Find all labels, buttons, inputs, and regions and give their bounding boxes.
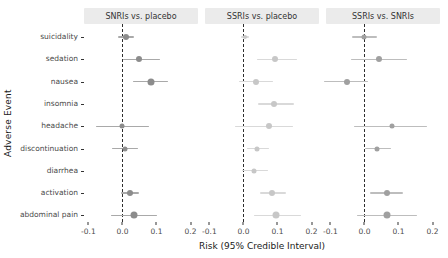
x-axis-tick	[190, 222, 191, 225]
zero-reference-line	[364, 24, 365, 222]
x-axis-tick-label: 0.2	[185, 227, 197, 236]
x-axis-tick	[398, 222, 399, 225]
x-axis-tick-label: 0.1	[272, 227, 284, 236]
facet-strip-label: SSRIs vs. SNRIs	[352, 12, 414, 21]
estimate-point	[271, 101, 277, 107]
x-axis-tick	[277, 222, 278, 225]
estimate-point	[375, 146, 380, 151]
facet-panel: SNRIs vs. placebo-0.10.00.10.2	[84, 8, 198, 252]
estimate-point	[266, 123, 272, 129]
estimate-point	[272, 56, 278, 62]
estimate-point	[273, 212, 280, 219]
zero-reference-line	[243, 24, 244, 222]
y-axis-label: diarrhea	[47, 167, 78, 175]
estimate-point	[362, 35, 367, 40]
facet-panel-body	[205, 24, 319, 222]
estimate-point	[136, 56, 142, 62]
facet-strip-label: SNRIs vs. placebo	[105, 12, 176, 21]
x-axis-tick	[156, 222, 157, 225]
x-axis-tick-label: -0.1	[323, 227, 338, 236]
x-axis-tick	[311, 222, 312, 225]
x-axis-tick-label: 0.0	[358, 227, 370, 236]
estimate-point	[131, 212, 138, 219]
x-axis-tick	[432, 222, 433, 225]
y-axis-label: nausea	[51, 78, 78, 86]
facet-panel-body	[326, 24, 440, 222]
x-axis-tick-label: -0.1	[81, 227, 96, 236]
facet-strip: SSRIs vs. placebo	[205, 8, 319, 24]
y-axis-label: abdominal pain	[20, 212, 78, 220]
y-axis: suicidalitysedationnauseainsomniaheadach…	[16, 24, 84, 222]
estimate-point	[389, 124, 394, 129]
facet-strip: SSRIs vs. SNRIs	[326, 8, 440, 24]
estimate-point	[384, 190, 390, 196]
estimate-point	[255, 146, 260, 151]
credible-interval-line	[235, 126, 293, 127]
facet-strip-label: SSRIs vs. placebo	[227, 12, 297, 21]
x-axis-tick-label: 0.2	[427, 227, 439, 236]
facet-panel: SSRIs vs. SNRIs-0.10.00.10.2	[326, 8, 440, 252]
x-axis-tick-label: 0.0	[116, 227, 128, 236]
x-axis-tick	[88, 222, 89, 225]
estimate-point	[252, 168, 257, 173]
y-axis-label: sedation	[46, 56, 78, 64]
x-axis-tick	[209, 222, 210, 225]
estimate-point	[148, 78, 155, 85]
x-axis-tick	[330, 222, 331, 225]
y-axis-label: activation	[41, 189, 78, 197]
estimate-point	[253, 79, 259, 85]
y-axis-title: Adverse Event	[1, 24, 15, 222]
facet-panel: SSRIs vs. placebo-0.10.00.10.2	[205, 8, 319, 252]
x-axis-tick-label: 0.1	[151, 227, 163, 236]
estimate-point	[344, 79, 350, 85]
x-axis-title: Risk (95% Credible Interval)	[84, 241, 440, 251]
x-axis-tick-label: 0.0	[237, 227, 249, 236]
estimate-point	[376, 56, 382, 62]
estimate-point	[123, 34, 129, 40]
facet-strip: SNRIs vs. placebo	[84, 8, 198, 24]
x-axis-tick-label: 0.1	[393, 227, 405, 236]
facet-panel-body	[84, 24, 198, 222]
y-axis-label: insomnia	[44, 100, 78, 108]
x-axis-tick-label: 0.2	[306, 227, 318, 236]
estimate-point	[243, 35, 247, 39]
estimate-point	[127, 190, 133, 196]
estimate-point	[120, 124, 125, 129]
forest-plot: Adverse Event suicidalitysedationnauseai…	[0, 0, 448, 258]
x-axis-tick-label: -0.1	[202, 227, 217, 236]
estimate-point	[383, 212, 390, 219]
x-axis-tick	[243, 222, 244, 225]
y-axis-label: discontinuation	[20, 145, 78, 153]
y-axis-label: headache	[41, 122, 78, 130]
x-axis-tick	[364, 222, 365, 225]
y-axis-label: suicidality	[40, 33, 78, 41]
x-axis-tick	[122, 222, 123, 225]
estimate-point	[269, 190, 275, 196]
panels-region: SNRIs vs. placebo-0.10.00.10.2SSRIs vs. …	[84, 8, 440, 252]
estimate-point	[123, 146, 128, 151]
